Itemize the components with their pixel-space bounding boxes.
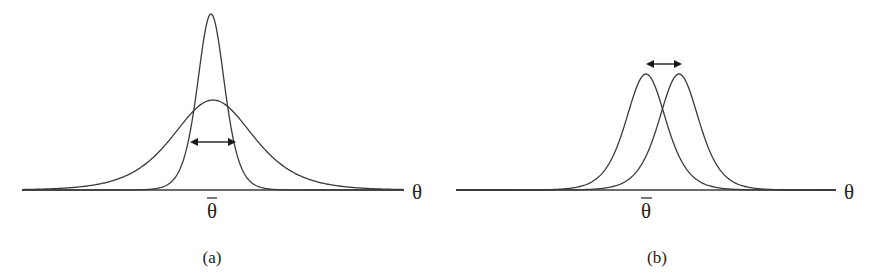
double-arrow-icon-a bbox=[190, 138, 236, 146]
panel-caption-a: (a) bbox=[203, 248, 222, 267]
panel-a: θ θ (a) bbox=[22, 14, 422, 267]
left-shifted-distribution-curve bbox=[456, 74, 836, 190]
mean-label-theta-bar-a: θ bbox=[207, 199, 217, 223]
panel-b: θ θ (b) bbox=[456, 60, 854, 267]
right-shifted-distribution-curve bbox=[456, 74, 836, 190]
axis-label-theta-b: θ bbox=[844, 180, 854, 204]
wide-short-distribution-curve bbox=[22, 100, 404, 190]
mean-label-theta-bar-b: θ bbox=[641, 199, 651, 223]
axis-label-theta-a: θ bbox=[412, 180, 422, 204]
double-arrow-icon-b bbox=[646, 60, 682, 68]
panel-caption-b: (b) bbox=[647, 248, 667, 267]
narrow-tall-distribution-curve bbox=[22, 14, 404, 190]
distribution-figure: θ θ (a) θ θ (b) bbox=[0, 0, 870, 279]
